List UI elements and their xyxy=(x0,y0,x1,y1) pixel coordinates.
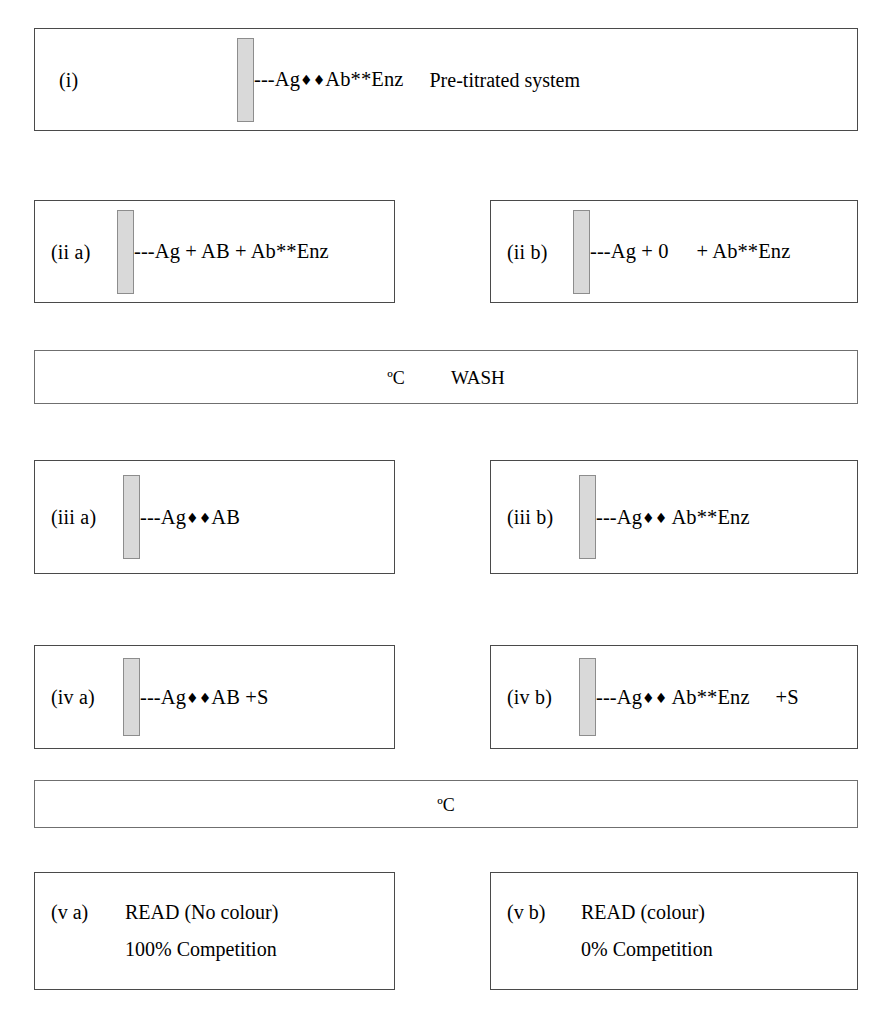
band-wash: ºCWASH xyxy=(34,350,858,404)
panel-readout-va: (v a) READ (No colour) 100% Competition xyxy=(34,872,395,990)
step-label-iiib: (iii b) xyxy=(507,507,579,527)
panel-step-iib: (ii b) ---Ag + 0 + Ab**Enz xyxy=(490,200,858,303)
panel-step-iia: (ii a) ---Ag + AB + Ab**Enz xyxy=(34,200,395,303)
readout-vb-line1: (v b) READ (colour) xyxy=(507,894,713,931)
formula-step-iib-left: ---Ag + 0 xyxy=(590,241,669,262)
readout-va-text2: 100% Competition xyxy=(125,931,277,968)
formula-step-i: ---Ag♦♦Ab**Enz xyxy=(254,69,404,90)
panel-step-iiia: (iii a) ---Ag♦♦AB xyxy=(34,460,395,574)
readout-va-content: (v a) READ (No colour) 100% Competition xyxy=(51,894,278,968)
panel-step-i: (i) ---Ag♦♦Ab**Enz Pre-titrated system xyxy=(34,28,858,131)
step-label-va: (v a) xyxy=(51,894,125,931)
step-label-iva: (iv a) xyxy=(51,687,123,707)
formula-step-iiib: ---Ag♦♦ Ab**Enz xyxy=(596,507,750,528)
solid-phase-bar-icon xyxy=(579,658,596,736)
panel-step-i-content: (i) ---Ag♦♦Ab**Enz Pre-titrated system xyxy=(35,38,857,122)
formula-step-iiia: ---Ag♦♦AB xyxy=(140,507,240,528)
readout-vb-line2: 0% Competition xyxy=(507,931,713,968)
readout-vb-content: (v b) READ (colour) 0% Competition xyxy=(507,894,713,968)
band-incubate: ºC xyxy=(34,780,858,828)
panel-step-iia-content: (ii a) ---Ag + AB + Ab**Enz xyxy=(35,210,394,294)
step-label-ivb: (iv b) xyxy=(507,687,579,707)
solid-phase-bar-icon xyxy=(123,475,140,559)
panel-step-iva-content: (iv a) ---Ag♦♦AB +S xyxy=(35,658,394,736)
band-wash-text: ºCWASH xyxy=(35,368,857,387)
band-wash-temperature: ºC xyxy=(387,368,405,388)
panel-step-iiia-content: (iii a) ---Ag♦♦AB xyxy=(35,475,394,559)
panel-step-iva: (iv a) ---Ag♦♦AB +S xyxy=(34,645,395,749)
step-label-iib: (ii b) xyxy=(507,242,573,262)
diamond-markers-icon: ♦♦ xyxy=(642,510,667,526)
readout-va-indent xyxy=(51,931,125,968)
step-label-iiia: (iii a) xyxy=(51,507,123,527)
step-label-vb: (v b) xyxy=(507,894,581,931)
band-incubate-text: ºC xyxy=(35,795,857,814)
panel-readout-vb: (v b) READ (colour) 0% Competition xyxy=(490,872,858,990)
readout-va-line1: (v a) READ (No colour) xyxy=(51,894,278,931)
panel-step-iiib: (iii b) ---Ag♦♦ Ab**Enz xyxy=(490,460,858,574)
formula-step-ivb-substrate: +S xyxy=(776,687,799,708)
panel-step-iib-content: (ii b) ---Ag + 0 + Ab**Enz xyxy=(491,210,857,294)
readout-vb-indent xyxy=(507,931,581,968)
solid-phase-bar-icon xyxy=(573,210,590,294)
note-step-i: Pre-titrated system xyxy=(430,70,581,90)
solid-phase-bar-icon xyxy=(237,38,254,122)
formula-step-ivb: ---Ag♦♦ Ab**Enz xyxy=(596,687,750,708)
formula-step-iib-right: + Ab**Enz xyxy=(697,241,791,262)
formula-step-iia: ---Ag + AB + Ab**Enz xyxy=(134,241,329,262)
diamond-markers-icon: ♦♦ xyxy=(186,690,211,706)
readout-va-text1: READ (No colour) xyxy=(125,894,278,931)
solid-phase-bar-icon xyxy=(579,475,596,559)
readout-va-line2: 100% Competition xyxy=(51,931,278,968)
diamond-markers-icon: ♦♦ xyxy=(300,72,325,88)
formula-step-iva: ---Ag♦♦AB +S xyxy=(140,687,268,708)
step-label-i: (i) xyxy=(59,70,237,90)
band-incubate-temperature: ºC xyxy=(437,795,455,815)
immunoassay-diagram: (i) ---Ag♦♦Ab**Enz Pre-titrated system (… xyxy=(0,0,889,1021)
step-label-iia: (ii a) xyxy=(51,242,117,262)
solid-phase-bar-icon xyxy=(117,210,134,294)
readout-vb-text1: READ (colour) xyxy=(581,894,705,931)
solid-phase-bar-icon xyxy=(123,658,140,736)
diamond-markers-icon: ♦♦ xyxy=(642,690,667,706)
band-wash-action: WASH xyxy=(451,367,505,388)
diamond-markers-icon: ♦♦ xyxy=(186,510,211,526)
readout-vb-text2: 0% Competition xyxy=(581,931,713,968)
panel-step-iiib-content: (iii b) ---Ag♦♦ Ab**Enz xyxy=(491,475,857,559)
panel-step-ivb: (iv b) ---Ag♦♦ Ab**Enz +S xyxy=(490,645,858,749)
panel-step-ivb-content: (iv b) ---Ag♦♦ Ab**Enz +S xyxy=(491,658,857,736)
